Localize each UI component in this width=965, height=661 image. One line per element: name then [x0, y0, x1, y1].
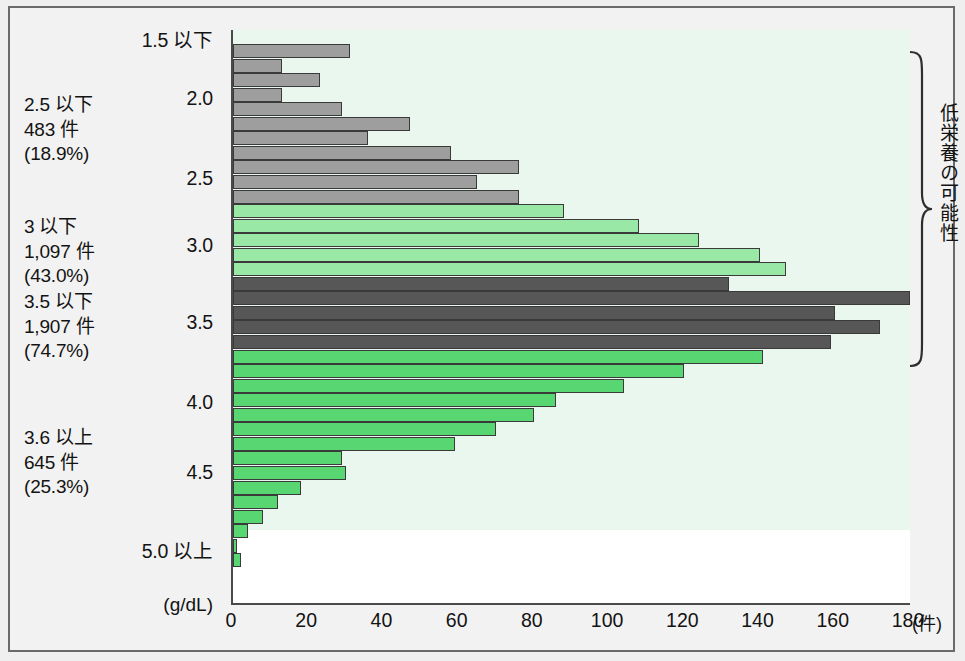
bar-24: [233, 393, 556, 407]
y-tick-1_5: 1.5 以下: [95, 24, 213, 53]
bar-23: [233, 379, 624, 393]
bar-20: [233, 335, 831, 349]
bar-16: [233, 277, 729, 291]
x-tick-80: 80: [502, 609, 562, 632]
bar-3: [233, 88, 282, 102]
bar-21: [233, 350, 763, 364]
bar-35: [233, 553, 241, 567]
bar-33: [233, 524, 248, 538]
bar-32: [233, 510, 263, 524]
bar-7: [233, 146, 451, 160]
bar-14: [233, 248, 760, 262]
bar-29: [233, 466, 346, 480]
bar-15: [233, 262, 786, 276]
y-tick-5_0: 5.0 以上: [95, 535, 213, 564]
low-nutrition-label: 低栄養の可能性: [932, 103, 958, 243]
bar-1: [233, 59, 282, 73]
bar-8: [233, 160, 519, 174]
y-tick-3_0: 3.0: [95, 234, 213, 257]
bar-31: [233, 495, 278, 509]
x-tick-140: 140: [728, 609, 788, 632]
y-axis-unit: (g/dL): [95, 594, 213, 616]
y-tick-2_0: 2.0: [95, 87, 213, 110]
x-tick-60: 60: [427, 609, 487, 632]
side-note-2_5: 2.5 以下 483 件 (18.9%): [24, 93, 93, 167]
bar-27: [233, 437, 455, 451]
bar-10: [233, 190, 519, 204]
bar-26: [233, 422, 496, 436]
x-tick-120: 120: [652, 609, 712, 632]
x-tick-160: 160: [803, 609, 863, 632]
x-axis-line: [231, 603, 910, 605]
bar-12: [233, 219, 639, 233]
x-tick-20: 20: [276, 609, 336, 632]
bar-22: [233, 364, 684, 378]
bar-9: [233, 175, 477, 189]
plot-lower-background: [233, 530, 910, 603]
x-tick-0: 0: [201, 609, 261, 632]
y-tick-2_5: 2.5: [95, 167, 213, 190]
bar-17: [233, 291, 910, 305]
x-axis-unit: (件): [912, 609, 942, 635]
y-tick-4_5: 4.5: [95, 461, 213, 484]
bar-13: [233, 233, 699, 247]
bar-0: [233, 44, 350, 58]
y-tick-4_0: 4.0: [95, 391, 213, 414]
y-tick-3_5: 3.5: [95, 311, 213, 334]
bar-18: [233, 306, 835, 320]
bar-19: [233, 320, 880, 334]
bar-11: [233, 204, 564, 218]
side-note-3_6: 3.6 以上 645 件 (25.3%): [24, 426, 93, 500]
bar-28: [233, 451, 342, 465]
bar-5: [233, 117, 410, 131]
bar-30: [233, 481, 301, 495]
bar-6: [233, 131, 368, 145]
chart-frame: 2.5 以下 483 件 (18.9%) 3 以下 1,097 件 (43.0%…: [8, 6, 955, 652]
plot-area: [231, 30, 910, 603]
bar-25: [233, 408, 534, 422]
side-note-3_5: 3.5 以下 1,907 件 (74.7%): [24, 290, 94, 364]
side-note-3: 3 以下 1,097 件 (43.0%): [24, 215, 94, 289]
x-tick-40: 40: [351, 609, 411, 632]
bar-4: [233, 102, 342, 116]
bracket-icon: [908, 50, 934, 368]
x-tick-100: 100: [577, 609, 637, 632]
bar-2: [233, 73, 320, 87]
bar-34: [233, 539, 237, 553]
